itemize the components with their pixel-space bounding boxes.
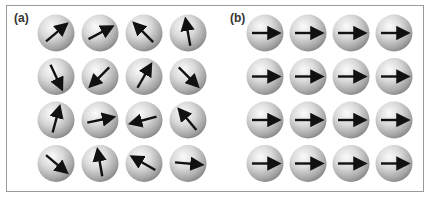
- spin-sphere: [170, 145, 207, 182]
- spin-sphere: [38, 102, 75, 139]
- spin-sphere: [126, 102, 163, 139]
- spin-sphere: [126, 15, 163, 52]
- spin-sphere: [82, 58, 119, 95]
- spin-sphere: [290, 58, 327, 95]
- spin-sphere: [247, 102, 284, 139]
- spin-sphere: [333, 15, 370, 52]
- spin-sphere: [333, 102, 370, 139]
- spin-sphere: [38, 145, 75, 182]
- spin-sphere: [126, 58, 163, 95]
- panel-a-random-spins: [38, 15, 207, 183]
- spin-sphere: [376, 58, 413, 95]
- spin-sphere: [247, 145, 284, 182]
- spin-sphere: [170, 58, 207, 95]
- spin-sphere: [290, 145, 327, 182]
- spin-sphere: [376, 102, 413, 139]
- spin-sphere: [333, 58, 370, 95]
- spin-sphere: [126, 145, 163, 182]
- spin-sphere: [376, 145, 413, 182]
- spin-sphere: [82, 15, 119, 52]
- spin-sphere: [170, 102, 207, 139]
- spin-sphere: [333, 145, 370, 182]
- spin-sphere: [38, 58, 75, 95]
- panel-b-aligned-spins: [247, 15, 413, 183]
- spin-sphere: [170, 15, 207, 52]
- spin-sphere: [376, 15, 413, 52]
- spin-sphere: [38, 15, 75, 52]
- spin-sphere: [247, 15, 284, 52]
- spin-sphere: [82, 102, 119, 139]
- spin-sphere: [82, 145, 119, 182]
- spin-diagram: [0, 0, 429, 199]
- spin-sphere: [290, 15, 327, 52]
- spin-sphere: [290, 102, 327, 139]
- spin-sphere: [247, 58, 284, 95]
